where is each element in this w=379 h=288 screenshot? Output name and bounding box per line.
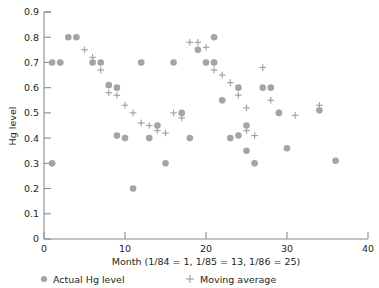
- data-point-plus: [268, 97, 275, 104]
- y-tick-label: 0.8: [24, 32, 39, 43]
- data-point-plus: [195, 39, 202, 46]
- legend-label-moving-average: Moving average: [200, 274, 276, 285]
- y-tick-label: 0.5: [24, 107, 39, 118]
- data-point-circle: [259, 84, 266, 91]
- data-point-circle: [130, 185, 137, 192]
- x-axis-label: Month (1/84 = 1, 1/85 = 13, 1/86 = 25): [112, 256, 301, 267]
- data-point-plus: [219, 72, 226, 79]
- data-point-circle: [251, 160, 258, 167]
- data-point-plus: [243, 127, 250, 134]
- y-tick-label: 0: [33, 233, 39, 244]
- x-axis-ticks: 010203040: [41, 232, 374, 254]
- data-point-circle: [170, 59, 177, 66]
- legend-plus-icon: [186, 275, 194, 283]
- data-point-plus: [243, 105, 250, 112]
- chart-canvas: 00.10.20.30.40.50.60.70.80.9 010203040 M…: [0, 0, 379, 288]
- data-point-circle: [138, 59, 145, 66]
- data-point-circle: [187, 135, 194, 142]
- data-point-circle: [146, 135, 153, 142]
- data-point-plus: [97, 67, 104, 74]
- y-tick-label: 0.1: [24, 208, 39, 219]
- data-point-circle: [219, 97, 226, 104]
- x-tick-label: 40: [362, 243, 374, 254]
- chart-legend: Actual Hg level Moving average: [41, 274, 276, 285]
- y-tick-label: 0.3: [24, 158, 39, 169]
- y-tick-label: 0.9: [24, 6, 39, 17]
- x-tick-label: 0: [41, 243, 47, 254]
- data-point-plus: [170, 110, 177, 117]
- data-point-plus: [227, 79, 234, 86]
- data-series-layer: [49, 34, 339, 192]
- data-point-plus: [89, 54, 96, 61]
- data-point-circle: [65, 34, 72, 41]
- data-point-circle: [195, 47, 202, 54]
- data-point-plus: [235, 92, 242, 99]
- data-point-plus: [259, 64, 266, 71]
- data-point-circle: [332, 158, 339, 165]
- data-point-circle: [49, 59, 56, 66]
- x-tick-label: 20: [200, 243, 212, 254]
- x-tick-label: 30: [281, 243, 293, 254]
- data-point-plus: [114, 92, 121, 99]
- data-point-circle: [122, 135, 129, 142]
- data-point-circle: [114, 132, 121, 139]
- data-point-plus: [81, 47, 88, 54]
- data-point-plus: [187, 39, 194, 46]
- data-point-plus: [122, 102, 129, 109]
- data-point-circle: [211, 34, 218, 41]
- data-point-plus: [162, 130, 169, 137]
- series-moving-average: [49, 39, 323, 167]
- data-point-circle: [268, 84, 275, 91]
- data-point-plus: [130, 110, 137, 117]
- legend-circle-icon: [41, 276, 47, 282]
- y-tick-label: 0.2: [24, 183, 39, 194]
- y-tick-label: 0.7: [24, 57, 39, 68]
- data-point-plus: [146, 122, 153, 129]
- y-axis-ticks: 00.10.20.30.40.50.60.70.80.9: [24, 6, 51, 244]
- data-point-circle: [97, 59, 104, 66]
- data-point-circle: [284, 145, 291, 152]
- y-axis-label: Hg level: [7, 107, 18, 146]
- data-point-plus: [211, 67, 218, 74]
- data-point-circle: [243, 147, 250, 154]
- data-point-circle: [235, 132, 242, 139]
- data-point-circle: [162, 160, 169, 167]
- data-point-circle: [203, 59, 210, 66]
- data-point-plus: [138, 120, 145, 127]
- data-point-plus: [178, 115, 185, 122]
- legend-label-actual: Actual Hg level: [53, 274, 125, 285]
- data-point-circle: [73, 34, 80, 41]
- data-point-plus: [203, 44, 210, 51]
- y-tick-label: 0.4: [24, 133, 39, 144]
- data-point-circle: [235, 84, 242, 91]
- data-point-plus: [106, 89, 113, 96]
- data-point-circle: [114, 84, 121, 91]
- data-point-plus: [316, 102, 323, 109]
- scatter-chart-figure: 00.10.20.30.40.50.60.70.80.9 010203040 M…: [0, 0, 379, 288]
- data-point-circle: [106, 82, 113, 89]
- y-tick-label: 0.6: [24, 82, 39, 93]
- data-point-plus: [292, 112, 299, 119]
- data-point-plus: [251, 132, 258, 139]
- data-point-circle: [227, 135, 234, 142]
- data-point-plus: [154, 127, 161, 134]
- x-tick-label: 10: [119, 243, 131, 254]
